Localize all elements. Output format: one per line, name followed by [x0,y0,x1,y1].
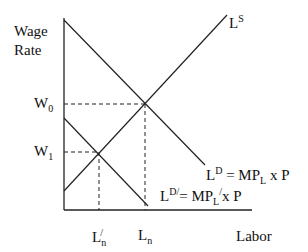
labor-market-diagram: Wage Rate W0 W1 LS LD = MPL x P LD/= MPL… [0,0,308,252]
ln-label: Ln [138,228,152,246]
ln-prime-label: Ln/ [92,228,103,248]
demand-label: LD = MPL x P [206,166,290,186]
demand-shifted-label: LD/= MPL/x P [160,187,242,207]
y-axis-label: Wage Rate [14,22,48,60]
w0-label: W0 [34,96,53,114]
demand-curve [64,20,205,165]
y-axis-label-line1: Wage [14,22,48,41]
x-axis-label: Labor [236,229,272,244]
w1-label: W1 [34,144,53,162]
demand-curve-shifted [64,118,148,206]
y-axis-label-line2: Rate [14,41,48,60]
supply-label: LS [229,14,244,31]
